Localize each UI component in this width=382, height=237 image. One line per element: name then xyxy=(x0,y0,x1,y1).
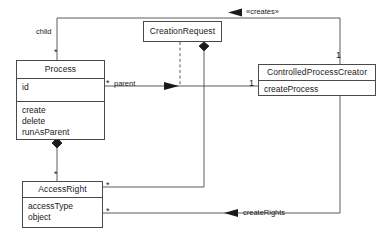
multiplicity-access-right-top: * xyxy=(54,170,58,179)
stereotype-label-creates: «creates» xyxy=(246,8,279,16)
operation-create-process: createProcess xyxy=(264,84,371,95)
aggregation-diamond-creation-request xyxy=(199,42,209,51)
operation-delete: delete xyxy=(22,116,100,127)
role-label-parent: parent xyxy=(114,80,135,88)
attribute-access-type: accessType xyxy=(28,201,98,212)
class-name-process: Process xyxy=(17,61,104,78)
multiplicity-access-right-upper: * xyxy=(106,181,110,190)
multiplicity-process-child: * xyxy=(54,48,58,57)
class-box-process[interactable]: Process id create delete runAsParent xyxy=(16,60,105,140)
label-create-rights: createRights xyxy=(243,209,285,217)
class-name-creation-request: CreationRequest xyxy=(144,22,221,40)
class-box-controlled-process-creator[interactable]: ControlledProcessCreator createProcess xyxy=(258,64,376,96)
create-rights-arrowhead xyxy=(224,209,238,217)
class-attributes-process: id xyxy=(17,78,104,101)
creation-request-accessright-path xyxy=(103,50,204,187)
multiplicity-access-right-lower: * xyxy=(106,207,110,216)
role-label-child: child xyxy=(36,28,51,36)
class-operations-process: create delete runAsParent xyxy=(17,101,104,141)
uml-diagram-canvas: Process id create delete runAsParent Cre… xyxy=(0,0,382,237)
creates-arrowhead xyxy=(228,9,242,17)
multiplicity-creator-top: 1 xyxy=(336,51,341,60)
create-rights-path xyxy=(103,96,340,213)
class-name-controlled-process-creator: ControlledProcessCreator xyxy=(259,65,375,80)
class-box-creation-request[interactable]: CreationRequest xyxy=(143,21,222,42)
attribute-object: object xyxy=(28,212,98,223)
class-box-access-right[interactable]: AccessRight accessType object xyxy=(22,181,103,228)
class-name-access-right: AccessRight xyxy=(23,182,102,197)
operation-run-as-parent: runAsParent xyxy=(22,127,100,138)
operation-create: create xyxy=(22,105,100,116)
class-attributes-access-right: accessType object xyxy=(23,197,102,226)
multiplicity-creator-left: 1 xyxy=(249,79,254,88)
parent-arrowhead xyxy=(164,82,179,90)
class-operations-controlled-process-creator: createProcess xyxy=(259,80,375,98)
attribute-id: id xyxy=(22,82,100,93)
multiplicity-process-parent: * xyxy=(106,79,110,88)
